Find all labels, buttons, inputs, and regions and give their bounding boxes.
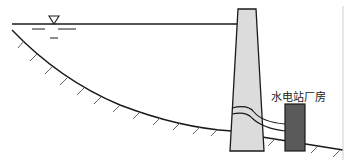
water-level-icon: [32, 16, 76, 38]
dam: [230, 9, 264, 151]
ground-hatching: [18, 41, 218, 136]
powerhouse: [285, 104, 305, 151]
reservoir-bed-line: [12, 30, 232, 131]
powerhouse-label: 水电站厂房: [271, 88, 326, 104]
hydropower-diagram: [0, 0, 350, 168]
